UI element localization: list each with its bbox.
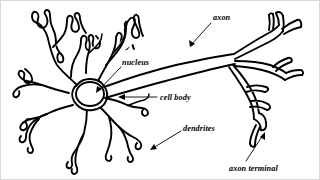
neuron-illustration: axon nucleus cell body dendrites axon te… <box>1 1 320 180</box>
dendrites-leader <box>150 131 181 150</box>
label-cell-body: cell body <box>160 93 191 102</box>
nucleus <box>76 82 104 106</box>
label-dendrites: dendrites <box>183 124 215 133</box>
label-axon-terminal: axon terminal <box>229 164 278 173</box>
label-nucleus: nucleus <box>122 58 149 67</box>
axon-leader <box>189 23 211 47</box>
cell-body-leader <box>118 94 157 100</box>
label-axon: axon <box>213 13 231 22</box>
neuron-diagram-figure: axon nucleus cell body dendrites axon te… <box>0 0 320 180</box>
axon-terminal-arbor <box>229 12 303 147</box>
